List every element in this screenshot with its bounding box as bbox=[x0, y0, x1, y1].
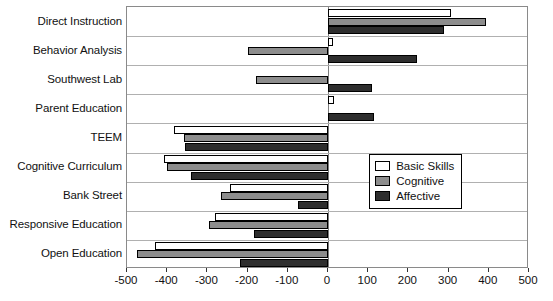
axis-tick-label: 300 bbox=[438, 274, 457, 287]
bar-basic bbox=[174, 126, 328, 134]
legend-swatch-aff bbox=[375, 191, 390, 201]
category-label: Open Education bbox=[0, 247, 122, 259]
plot-area bbox=[126, 6, 528, 268]
axis-tick bbox=[287, 268, 288, 272]
gridline bbox=[127, 123, 527, 124]
gridline bbox=[127, 94, 527, 95]
legend-label: Cognitive bbox=[396, 175, 444, 188]
legend-swatch-basic bbox=[375, 161, 390, 171]
bar-basic bbox=[215, 213, 328, 221]
category-axis-labels: Direct InstructionBehavior AnalysisSouth… bbox=[0, 6, 122, 268]
bar-aff bbox=[240, 259, 328, 267]
axis-tick-label: 200 bbox=[398, 274, 417, 287]
axis-tick bbox=[166, 268, 167, 272]
legend-swatch-cog bbox=[375, 176, 390, 186]
category-label: TEEM bbox=[0, 131, 122, 143]
axis-tick bbox=[488, 268, 489, 272]
bar-aff bbox=[298, 201, 328, 209]
bar-chart: Direct InstructionBehavior AnalysisSouth… bbox=[0, 0, 553, 301]
bar-aff bbox=[328, 113, 374, 121]
bar-aff bbox=[328, 55, 417, 63]
bar-cog bbox=[137, 250, 328, 258]
bar-basic bbox=[328, 9, 451, 17]
axis-tick-label: 500 bbox=[518, 274, 537, 287]
bar-cog bbox=[184, 134, 328, 142]
axis-tick bbox=[126, 268, 127, 272]
axis-tick-label: 0 bbox=[324, 274, 330, 287]
gridline bbox=[127, 240, 527, 241]
bar-basic bbox=[328, 38, 333, 46]
legend-item[interactable]: Basic Skills bbox=[375, 159, 454, 174]
bar-basic bbox=[164, 155, 328, 163]
axis-tick bbox=[407, 268, 408, 272]
bar-basic bbox=[155, 242, 328, 250]
bar-basic bbox=[230, 184, 328, 192]
bar-aff bbox=[328, 84, 372, 92]
gridline bbox=[127, 65, 527, 66]
axis-tick-label: -300 bbox=[195, 274, 218, 287]
bar-cog bbox=[256, 76, 328, 84]
category-label: Bank Street bbox=[0, 189, 122, 201]
category-label: Cognitive Curriculum bbox=[0, 160, 122, 172]
legend-label: Basic Skills bbox=[396, 160, 454, 173]
axis-tick bbox=[327, 268, 328, 272]
bar-cog bbox=[328, 18, 486, 26]
axis-tick-label: 100 bbox=[358, 274, 377, 287]
gridline bbox=[127, 36, 527, 37]
category-label: Responsive Education bbox=[0, 218, 122, 230]
axis-tick-label: -200 bbox=[235, 274, 258, 287]
chart-legend: Basic SkillsCognitiveAffective bbox=[369, 154, 462, 209]
category-label: Southwest Lab bbox=[0, 73, 122, 85]
legend-item[interactable]: Cognitive bbox=[375, 174, 454, 189]
axis-tick-label: -400 bbox=[155, 274, 178, 287]
axis-tick-label: 400 bbox=[478, 274, 497, 287]
bar-basic bbox=[328, 96, 334, 104]
bar-aff bbox=[328, 26, 444, 34]
category-label: Behavior Analysis bbox=[0, 44, 122, 56]
axis-tick bbox=[247, 268, 248, 272]
category-label: Direct Instruction bbox=[0, 15, 122, 27]
bar-cog bbox=[167, 163, 328, 171]
legend-item[interactable]: Affective bbox=[375, 189, 454, 204]
value-axis: -500-400-300-200-1000100200300400500 bbox=[126, 268, 528, 294]
axis-tick-label: -500 bbox=[114, 274, 137, 287]
axis-tick-label: -100 bbox=[275, 274, 298, 287]
axis-tick bbox=[367, 268, 368, 272]
bar-aff bbox=[185, 143, 328, 151]
bar-cog bbox=[209, 221, 328, 229]
axis-tick bbox=[528, 268, 529, 272]
bar-aff bbox=[254, 230, 328, 238]
legend-label: Affective bbox=[396, 190, 440, 203]
bar-aff bbox=[191, 172, 328, 180]
bar-cog bbox=[221, 192, 328, 200]
axis-tick bbox=[448, 268, 449, 272]
axis-tick bbox=[206, 268, 207, 272]
category-label: Parent Education bbox=[0, 102, 122, 114]
bar-cog bbox=[248, 47, 328, 55]
